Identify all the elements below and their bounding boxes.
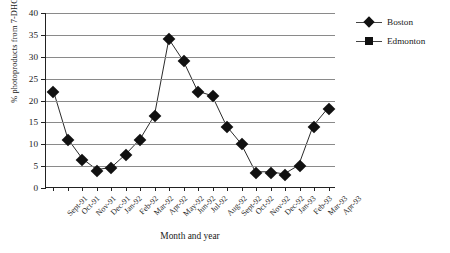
- x-axis-tick: [213, 187, 214, 191]
- y-axis-title: % photoproducts from 7-DHC: [10, 0, 19, 141]
- y-axis-tick: [41, 188, 46, 189]
- gridline: [46, 57, 335, 58]
- gridline: [46, 144, 335, 145]
- x-axis-tick: [126, 187, 127, 191]
- x-axis-tick: [184, 187, 185, 191]
- x-axis-tick: [97, 187, 98, 191]
- y-axis-tick-label: 10: [29, 139, 38, 149]
- x-axis-tick: [285, 187, 286, 191]
- y-axis-tick: [41, 122, 46, 123]
- y-axis-tick-label: 35: [29, 30, 38, 40]
- y-axis-tick-label: 25: [29, 74, 38, 84]
- y-axis-tick: [41, 35, 46, 36]
- legend-square-icon: [356, 36, 382, 45]
- y-axis-tick-label: 30: [29, 52, 38, 62]
- y-axis-tick: [41, 101, 46, 102]
- gridline: [46, 35, 335, 36]
- x-axis-tick: [82, 187, 83, 191]
- x-axis-tick: [271, 187, 272, 191]
- x-axis-tick: [68, 187, 69, 191]
- chart-root: % photoproducts from 7-DHC 0510152025303…: [0, 0, 450, 253]
- legend-item-boston[interactable]: Boston: [356, 12, 425, 31]
- x-axis-tick: [140, 187, 141, 191]
- legend-diamond-icon: [356, 17, 382, 26]
- y-axis-tick: [41, 79, 46, 80]
- legend-item-label: Edmonton: [387, 36, 425, 46]
- y-axis-tick-label: 20: [29, 96, 38, 106]
- y-axis-tick: [41, 144, 46, 145]
- y-axis-tick-label: 15: [29, 117, 38, 127]
- gridline: [46, 122, 335, 123]
- x-axis-tick: [169, 187, 170, 191]
- y-axis-tick: [41, 13, 46, 14]
- y-axis-tick-label: 5: [33, 161, 38, 171]
- x-axis-tick: [314, 187, 315, 191]
- gridline: [46, 13, 335, 14]
- x-axis-tick: [300, 187, 301, 191]
- gridline: [46, 79, 335, 80]
- chart-legend: BostonEdmonton: [356, 12, 425, 50]
- x-axis-tick: [227, 187, 228, 191]
- plot-area: 0510152025303540Sept-91Oct-91Nov-91Dec-9…: [45, 13, 335, 188]
- legend-item-edmonton[interactable]: Edmonton: [356, 31, 425, 50]
- x-axis-tick: [329, 187, 330, 191]
- x-axis-title: Month and year: [45, 231, 335, 241]
- gridline: [46, 101, 335, 102]
- x-axis-tick: [111, 187, 112, 191]
- x-axis-tick: [155, 187, 156, 191]
- x-axis-tick: [242, 187, 243, 191]
- legend-item-label: Boston: [387, 17, 413, 27]
- y-axis-tick-label: 40: [29, 8, 38, 18]
- y-axis-tick: [41, 166, 46, 167]
- x-axis-tick: [256, 187, 257, 191]
- y-axis-tick: [41, 57, 46, 58]
- x-axis-tick: [198, 187, 199, 191]
- gridline: [46, 166, 335, 167]
- y-axis-tick-label: 0: [33, 183, 38, 193]
- x-axis-tick: [53, 187, 54, 191]
